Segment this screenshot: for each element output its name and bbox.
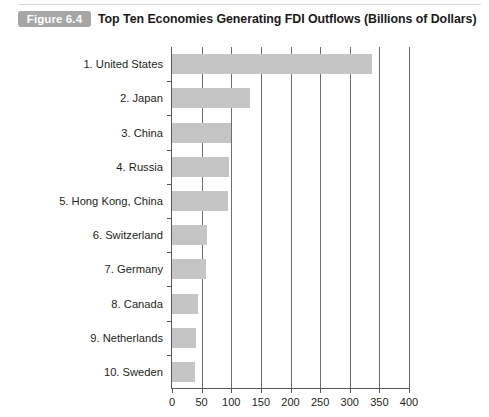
y-axis-tick <box>167 218 172 219</box>
y-axis-tick <box>167 252 172 253</box>
x-axis-tick-label: 250 <box>311 395 329 409</box>
x-axis-tick-label: 50 <box>196 395 208 409</box>
y-axis-tick <box>167 81 172 82</box>
x-axis-tick-label: 300 <box>341 395 359 409</box>
figure-number-badge: Figure 6.4 <box>18 11 91 27</box>
bar <box>172 123 231 143</box>
gridline <box>350 47 351 389</box>
bar-category-label: 10. Sweden <box>104 364 163 380</box>
y-axis-tick <box>167 150 172 151</box>
bar <box>172 328 196 348</box>
bar-category-label: 9. Netherlands <box>90 330 163 346</box>
gridline <box>409 47 410 389</box>
x-axis-tick-label: 350 <box>370 395 388 409</box>
bar <box>172 225 207 245</box>
figure-title: Top Ten Economies Generating FDI Outflow… <box>98 10 476 28</box>
bar-category-label: 1. United States <box>83 56 163 72</box>
bar-category-label: 2. Japan <box>120 90 163 106</box>
x-axis-tick-label: 400 <box>400 395 418 409</box>
figure-header: Figure 6.4 Top Ten Economies Generating … <box>0 0 489 33</box>
x-axis-tick-label: 200 <box>281 395 299 409</box>
bar-category-label: 3. China <box>121 125 163 141</box>
x-axis-tick <box>172 388 173 393</box>
x-axis-tick <box>320 388 321 393</box>
gridline <box>261 47 262 389</box>
x-axis-tick <box>261 388 262 393</box>
bar-category-label: 5. Hong Kong, China <box>59 193 163 209</box>
x-axis-tick <box>291 388 292 393</box>
y-axis-tick <box>167 321 172 322</box>
x-axis-tick-label: 150 <box>252 395 270 409</box>
header-divider <box>18 4 481 5</box>
bar-category-label: 4. Russia <box>116 159 163 175</box>
x-axis-tick <box>231 388 232 393</box>
x-axis-tick <box>202 388 203 393</box>
bar <box>172 294 198 314</box>
x-axis-tick-label: 100 <box>222 395 240 409</box>
bar <box>172 88 250 108</box>
bar-chart: 1. United States2. Japan3. China4. Russi… <box>0 33 489 417</box>
plot-area: 1. United States2. Japan3. China4. Russi… <box>172 47 409 389</box>
y-axis-tick <box>167 286 172 287</box>
x-axis-tick <box>409 388 410 393</box>
bar <box>172 54 372 74</box>
y-axis-tick <box>167 355 172 356</box>
bar-category-label: 6. Switzerland <box>93 227 163 243</box>
bar <box>172 259 206 279</box>
x-axis-tick <box>379 388 380 393</box>
bar-category-label: 8. Canada <box>111 296 163 312</box>
bar <box>172 191 228 211</box>
y-axis-tick <box>167 115 172 116</box>
bar <box>172 362 195 382</box>
gridline <box>379 47 380 389</box>
bar-category-label: 7. Germany <box>105 261 163 277</box>
x-axis-tick <box>350 388 351 393</box>
y-axis-tick <box>167 184 172 185</box>
gridline <box>291 47 292 389</box>
gridline <box>320 47 321 389</box>
bar <box>172 157 229 177</box>
x-axis-tick-label: 0 <box>169 395 175 409</box>
